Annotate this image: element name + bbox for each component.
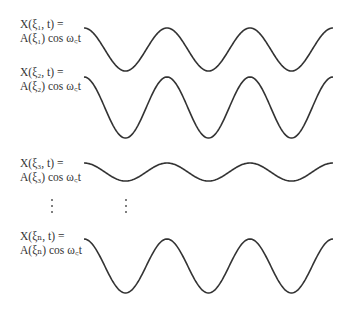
vertical-ellipsis-icon bbox=[125, 199, 127, 213]
cosine-wave-2 bbox=[84, 77, 333, 138]
cosine-wave-1 bbox=[84, 28, 333, 71]
cosine-waves bbox=[0, 0, 354, 310]
cosine-wave-4 bbox=[84, 239, 333, 293]
vertical-ellipsis-icon bbox=[51, 199, 53, 213]
cosine-wave-3 bbox=[84, 163, 333, 181]
